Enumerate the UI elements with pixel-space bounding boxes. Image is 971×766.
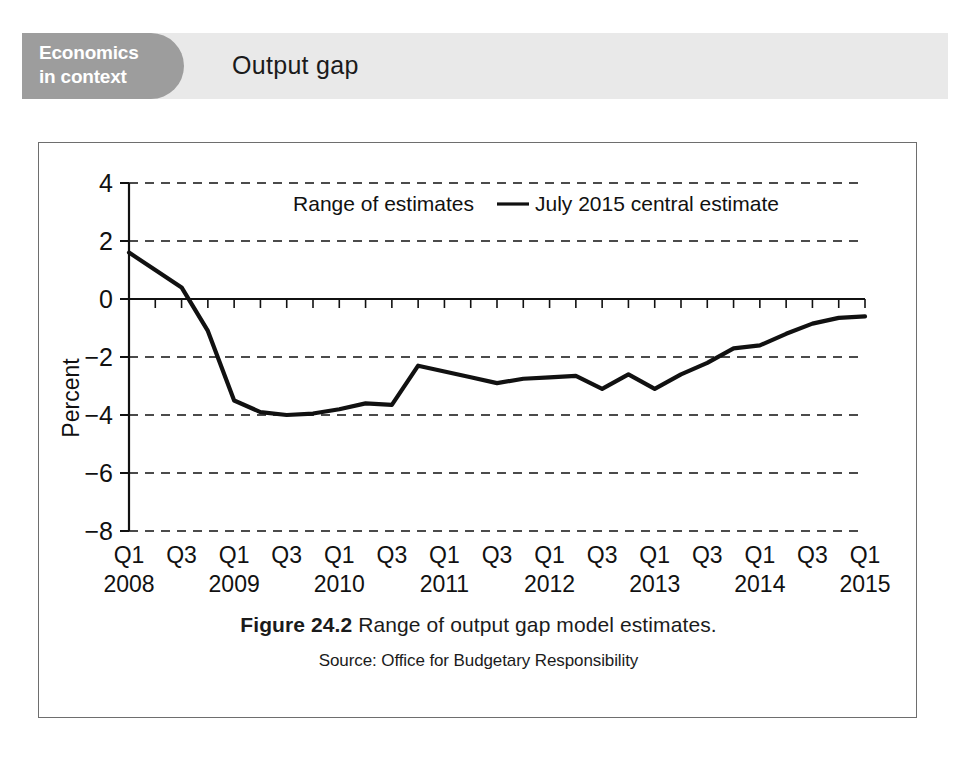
- y-axis-tick-labels: 420−2−4−6−8: [84, 169, 113, 545]
- x-year-label: 2014: [734, 571, 785, 597]
- page-title: Output gap: [232, 51, 359, 80]
- gridlines: [129, 183, 865, 531]
- legend-central-estimate-label: July 2015 central estimate: [535, 192, 779, 215]
- x-year-label: 2009: [209, 571, 260, 597]
- y-tick-label: 2: [99, 227, 113, 255]
- figure-source: Source: Office for Budgetary Responsibil…: [39, 651, 918, 671]
- x-axis-ticks: [129, 299, 865, 308]
- chart-legend: Range of estimates July 2015 central est…: [293, 192, 779, 215]
- x-tick-label: Q1: [324, 542, 355, 568]
- x-tick-label: Q3: [797, 542, 828, 568]
- figure-caption-text: Range of output gap model estimates.: [358, 613, 717, 636]
- economics-in-context-badge: Economics in context: [22, 33, 184, 99]
- x-year-label: 2010: [314, 571, 365, 597]
- y-tick-label: −4: [84, 401, 113, 429]
- badge-line-2: in context: [39, 65, 184, 89]
- x-year-label: 2015: [839, 571, 890, 597]
- y-tick-label: −2: [84, 343, 113, 371]
- y-axis-ticks: [120, 183, 129, 531]
- x-year-label: 2012: [524, 571, 575, 597]
- x-tick-label: Q1: [429, 542, 460, 568]
- x-tick-label: Q1: [219, 542, 250, 568]
- figure-container: Percent 420−2−4−6−8 Q1Q3Q1Q3Q1Q3Q1Q3Q1Q3…: [38, 142, 917, 718]
- x-tick-label: Q3: [482, 542, 513, 568]
- y-tick-label: −8: [84, 517, 113, 545]
- x-tick-label: Q1: [745, 542, 776, 568]
- x-tick-label: Q1: [639, 542, 670, 568]
- data-line-central-estimate: [129, 253, 865, 415]
- x-year-label: 2011: [420, 571, 469, 597]
- x-axis-tick-labels: Q1Q3Q1Q3Q1Q3Q1Q3Q1Q3Q1Q3Q1Q3Q1: [114, 542, 881, 568]
- legend-range-estimates-label: Range of estimates: [293, 192, 474, 215]
- data-series-group: [129, 253, 865, 415]
- output-gap-chart: Percent 420−2−4−6−8 Q1Q3Q1Q3Q1Q3Q1Q3Q1Q3…: [39, 143, 916, 613]
- figure-caption-block: Figure 24.2 Range of output gap model es…: [39, 613, 918, 671]
- x-tick-label: Q1: [114, 542, 145, 568]
- x-tick-label: Q3: [377, 542, 408, 568]
- figure-number: Figure 24.2: [240, 613, 352, 636]
- x-tick-label: Q1: [850, 542, 881, 568]
- x-tick-label: Q3: [587, 542, 618, 568]
- x-axis-year-labels: 20082009201020112012201320142015: [103, 571, 890, 597]
- x-tick-label: Q3: [271, 542, 302, 568]
- y-tick-label: 4: [99, 169, 113, 197]
- badge-line-1: Economics: [39, 41, 184, 65]
- y-tick-label: −6: [84, 459, 113, 487]
- x-tick-label: Q3: [692, 542, 723, 568]
- x-year-label: 2013: [629, 571, 680, 597]
- y-tick-label: 0: [99, 285, 113, 313]
- x-tick-label: Q3: [166, 542, 197, 568]
- figure-caption: Figure 24.2 Range of output gap model es…: [39, 613, 918, 637]
- x-year-label: 2008: [103, 571, 154, 597]
- y-axis-label: Percent: [58, 358, 84, 438]
- x-tick-label: Q1: [534, 542, 565, 568]
